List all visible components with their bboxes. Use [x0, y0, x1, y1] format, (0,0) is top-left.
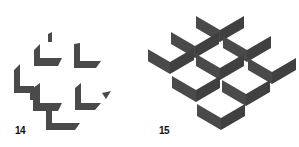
l-shape [74, 43, 101, 68]
fragment-shape [30, 90, 36, 100]
chevron-row-5 [197, 104, 245, 130]
l-shape [14, 64, 34, 93]
figure-14: 14 [0, 0, 148, 147]
chevron-row-1 [196, 16, 244, 42]
chevron-row-3 [148, 48, 296, 84]
figure-number: 14 [15, 125, 25, 136]
fragment-shape [48, 32, 52, 42]
l-shape [34, 44, 62, 66]
l-shape [46, 103, 80, 130]
figure-number: 15 [159, 125, 169, 136]
fragment-shape [102, 91, 111, 99]
chevron-grid-graphic [148, 0, 299, 147]
chevron-row-4 [172, 76, 270, 106]
l-shape [75, 83, 101, 110]
figure-15: 15 [148, 0, 299, 147]
